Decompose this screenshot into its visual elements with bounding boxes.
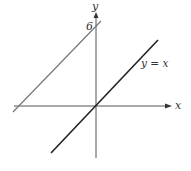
graph: x y 6 y = x	[0, 0, 191, 171]
line-label: y = x	[140, 57, 168, 69]
y-axis-label: y	[91, 0, 99, 13]
intercept-label: 6	[86, 20, 93, 33]
line-y-equals-x-plus-6	[13, 21, 101, 112]
x-axis-label: x	[175, 99, 182, 112]
x-axis-arrow-icon	[165, 104, 172, 109]
